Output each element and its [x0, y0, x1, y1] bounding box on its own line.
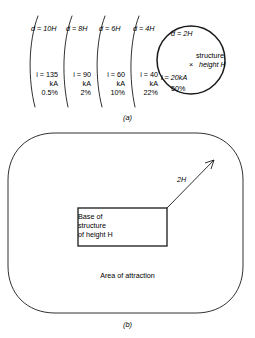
- arrow-label-2H: 2H: [177, 176, 186, 185]
- arc-percent-10H: 0.5%: [22, 88, 58, 97]
- circle-current-2H: i = 20kA: [161, 74, 187, 83]
- arc-label-d-6H: d = 6H: [99, 25, 120, 34]
- circle-percent-2H: 50%: [171, 85, 185, 94]
- arc-unit-6H: kA: [89, 79, 125, 88]
- panel-b-caption: (b): [0, 320, 255, 329]
- arc-current-4H: i = 40: [123, 70, 158, 79]
- base-label-line2: structure: [78, 221, 167, 230]
- arc-unit-10H: kA: [22, 79, 58, 88]
- arc-label-d-4H: d = 4H: [133, 25, 154, 34]
- arc-current-6H: i = 60: [89, 70, 125, 79]
- base-label-line1: Base of: [78, 212, 167, 221]
- structure-label-line2: height H: [199, 61, 226, 70]
- arc-current-10H: i = 135: [22, 70, 58, 79]
- arc-percent-6H: 10%: [89, 88, 125, 97]
- marker-x-icon: ×: [189, 61, 193, 70]
- arc-current-8H: i = 90: [56, 70, 91, 79]
- arc-unit-4H: kA: [123, 79, 158, 88]
- base-label-line3: of height H: [78, 230, 167, 239]
- area-of-attraction-label: Area of attraction: [0, 272, 255, 281]
- arc-label-d-8H: d = 8H: [66, 25, 87, 34]
- arc-label-d-10H: d = 10H: [31, 25, 56, 34]
- arc-unit-8H: kA: [56, 79, 91, 88]
- arc-percent-4H: 22%: [123, 88, 158, 97]
- arc-percent-8H: 2%: [56, 88, 91, 97]
- panel-a-caption: (a): [0, 113, 255, 122]
- circle-label-d-2H: d = 2H: [171, 30, 192, 39]
- radius-arrow-line: [167, 160, 214, 208]
- lightning-attraction-figure: d = 10H i = 135 kA 0.5% d = 8H i = 90 kA…: [0, 0, 255, 338]
